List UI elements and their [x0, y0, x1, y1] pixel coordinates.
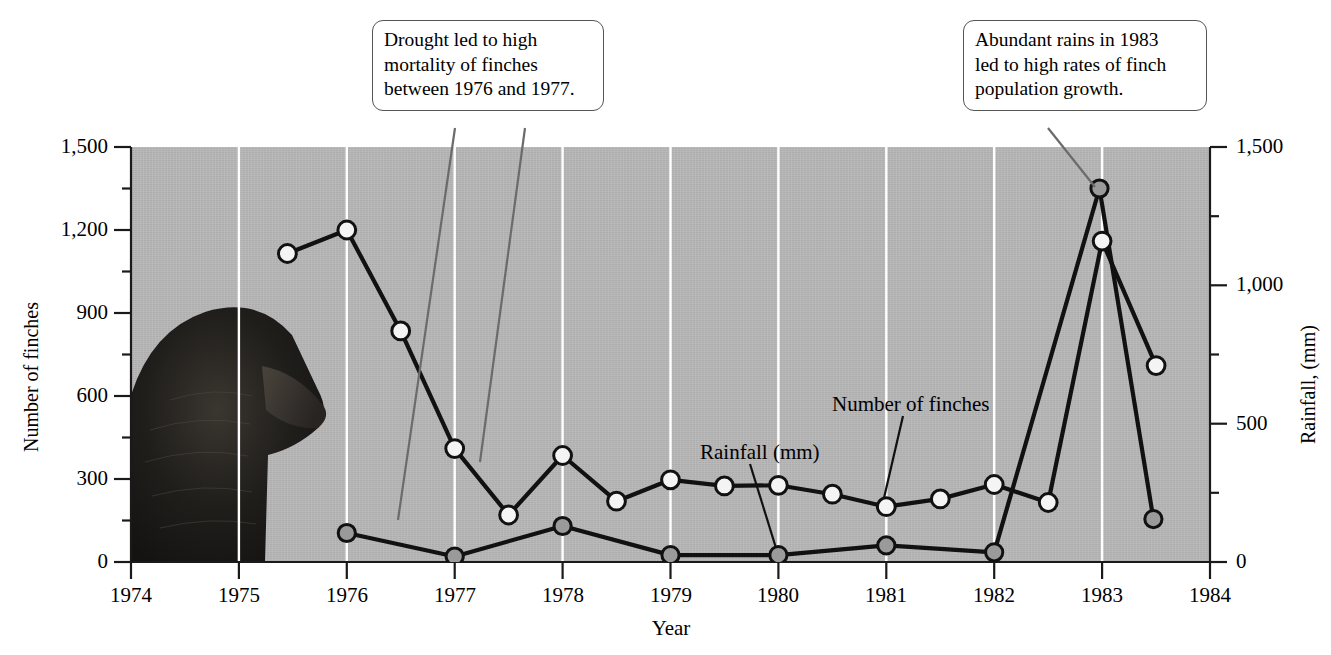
x-axis-ticks — [131, 562, 1210, 579]
right-axis-ticks — [1210, 147, 1227, 562]
x-tick-1984: 1984 — [1170, 583, 1250, 608]
y-right-tick-0: 0 — [1236, 551, 1247, 572]
chart-figure: 1,500 1,200 900 600 300 0 1,500 1,000 50… — [0, 0, 1331, 655]
callout-rains: Abundant rains in 1983 led to high rates… — [963, 20, 1207, 111]
y-right-tick-1500: 1,500 — [1236, 136, 1283, 157]
x-tick-1981: 1981 — [846, 583, 926, 608]
y-right-tick-500: 500 — [1236, 413, 1268, 434]
x-tick-1977: 1977 — [415, 583, 495, 608]
x-tick-1978: 1978 — [523, 583, 603, 608]
x-tick-1979: 1979 — [631, 583, 711, 608]
left-axis-ticks — [114, 147, 131, 562]
y-left-axis-title: Number of finches — [20, 302, 43, 452]
x-tick-1974: 1974 — [91, 583, 171, 608]
y-right-axis-title: Rainfall, (mm) — [1297, 325, 1320, 444]
x-axis-title: Year — [631, 616, 711, 641]
y-left-tick-1200: 1,200 — [20, 219, 108, 240]
series-label-rainfall: Rainfall (mm) — [700, 440, 820, 465]
x-tick-1982: 1982 — [954, 583, 1034, 608]
y-left-tick-1500: 1,500 — [20, 136, 108, 157]
x-tick-1976: 1976 — [307, 583, 387, 608]
series-label-finches: Number of finches — [832, 392, 989, 417]
y-right-tick-1000: 1,000 — [1236, 274, 1283, 295]
y-left-tick-300: 300 — [20, 468, 108, 489]
y-left-tick-0: 0 — [20, 551, 108, 572]
x-tick-1983: 1983 — [1062, 583, 1142, 608]
callout-drought: Drought led to high mortality of finches… — [372, 20, 604, 111]
x-tick-1980: 1980 — [738, 583, 818, 608]
plot-area-background — [131, 147, 1210, 562]
x-tick-1975: 1975 — [199, 583, 279, 608]
